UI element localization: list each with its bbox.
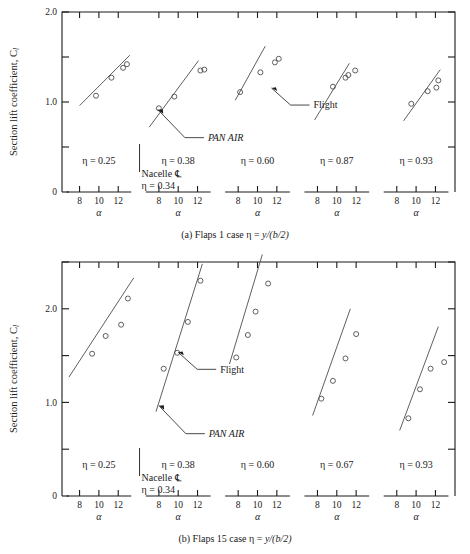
panair-fit-line xyxy=(400,327,439,431)
nacelle-label: Nacelle ℄ xyxy=(142,168,182,179)
x-tick-label: 8 xyxy=(77,500,82,510)
x-tick-label: 12 xyxy=(272,196,282,206)
flight-label: Flight xyxy=(220,364,244,375)
flight-data-point xyxy=(258,70,263,75)
flight-data-point xyxy=(94,93,99,98)
chart-panel-a: 01.02.0Section lift coefficient, Cl81012… xyxy=(0,0,470,250)
chart-panel-b: 01.02.0Section lift coefficient, Cl81012… xyxy=(0,250,470,554)
x-tick-label: 12 xyxy=(431,500,441,510)
panair-fit-line xyxy=(229,255,262,365)
x-tick-label: 8 xyxy=(394,196,399,206)
caption-expression: y/(b/2) xyxy=(261,229,289,241)
x-axis-symbol: α xyxy=(96,207,102,218)
y-tick-label: 2.0 xyxy=(45,7,57,17)
flight-label: Flight xyxy=(314,99,338,110)
y-tick-label: 1.0 xyxy=(45,398,57,408)
panair-fit-line xyxy=(235,46,265,100)
y-axis-title-text: Section lift coefficient, Cl xyxy=(8,48,22,156)
flight-data-point xyxy=(319,396,324,401)
flight-data-point xyxy=(109,75,114,80)
flight-data-point xyxy=(119,322,124,327)
x-tick-label: 10 xyxy=(173,196,183,206)
flight-data-point xyxy=(161,366,166,371)
panair-label: PAN AIR xyxy=(208,428,244,439)
nacelle-marker-a: Nacelle ℄η = 0.34 xyxy=(140,144,182,191)
x-tick-label: 10 xyxy=(332,196,342,206)
eta-label: η = 0.25 xyxy=(82,459,115,470)
figure-root: 01.02.0Section lift coefficient, Cl81012… xyxy=(0,0,470,554)
flight-data-point xyxy=(436,78,441,83)
x-tick-label: 10 xyxy=(253,196,263,206)
eta-label: η = 0.38 xyxy=(162,459,195,470)
x-tick-label: 10 xyxy=(253,500,263,510)
y-axis-title-b: Section lift coefficient, Cl xyxy=(8,325,22,433)
x-axis-symbol: α xyxy=(176,207,182,218)
flight-data-point xyxy=(124,62,129,67)
y-axis-title-subscript: l xyxy=(12,48,21,50)
eta-label: η = 0.60 xyxy=(241,459,274,470)
eta-label: η = 0.87 xyxy=(320,155,353,166)
chart-caption-a: (a) Flaps 1 case η = y/(b/2) xyxy=(181,229,289,241)
x-axis-symbol: α xyxy=(96,511,102,522)
x-tick-label: 10 xyxy=(411,196,421,206)
x-axis-symbol: α xyxy=(255,511,261,522)
nacelle-marker-b: Nacelle ℄η = 0.34 xyxy=(140,448,182,495)
subpanel-a-2: 81012αη = 0.60 xyxy=(225,12,290,218)
flight-data-point xyxy=(245,333,250,338)
flight-data-point xyxy=(343,356,348,361)
flight-data-point xyxy=(434,85,439,90)
flight-data-point xyxy=(266,281,271,286)
flight-data-point xyxy=(172,94,177,99)
y-axis-a: 01.02.0 xyxy=(45,7,455,197)
caption-text: (b) Flaps 15 case η = y/(b/2) xyxy=(178,533,292,545)
x-tick-label: 10 xyxy=(94,500,104,510)
flight-data-point xyxy=(330,378,335,383)
eta-label: η = 0.60 xyxy=(241,155,274,166)
caption-eta: η = xyxy=(249,533,265,544)
panair-arrowhead xyxy=(158,109,163,113)
flight-data-point xyxy=(442,360,447,365)
panair-fit-line xyxy=(313,309,351,416)
x-axis-symbol: α xyxy=(334,207,340,218)
y-axis-title-text: Section lift coefficient, Cl xyxy=(8,325,22,433)
x-tick-label: 8 xyxy=(156,500,161,510)
chart-caption-b: (b) Flaps 15 case η = y/(b/2) xyxy=(178,533,292,545)
panair-leader-line xyxy=(158,110,204,138)
x-tick-label: 8 xyxy=(394,500,399,510)
flight-data-point xyxy=(103,333,108,338)
x-tick-label: 10 xyxy=(332,500,342,510)
flight-data-point xyxy=(125,296,130,301)
x-tick-label: 12 xyxy=(351,196,361,206)
panair-fit-line xyxy=(69,278,134,377)
eta-label: η = 0.93 xyxy=(399,155,432,166)
caption-expression: y/(b/2) xyxy=(264,533,292,545)
chart-svg-b: 01.02.0Section lift coefficient, Cl81012… xyxy=(0,250,470,554)
subpanel-a-4: 81012αη = 0.93 xyxy=(384,12,449,218)
nacelle-label: Nacelle ℄ xyxy=(142,472,182,483)
x-tick-label: 8 xyxy=(315,196,320,206)
panair-fit-line xyxy=(156,264,202,412)
panair-annotation-b: PAN AIR xyxy=(159,405,244,439)
panair-arrowhead xyxy=(159,405,164,409)
x-tick-label: 12 xyxy=(351,500,361,510)
y-axis-title-a: Section lift coefficient, Cl xyxy=(8,48,22,156)
x-tick-label: 12 xyxy=(113,500,123,510)
caption-text: (a) Flaps 1 case η = y/(b/2) xyxy=(181,229,289,241)
x-axis-symbol: α xyxy=(334,511,340,522)
nacelle-eta-label: η = 0.34 xyxy=(142,484,175,495)
flight-data-point xyxy=(354,332,359,337)
x-tick-label: 12 xyxy=(113,196,123,206)
flight-data-point xyxy=(406,416,411,421)
caption-eta: η = xyxy=(246,229,262,240)
x-tick-label: 10 xyxy=(94,196,104,206)
flight-data-point xyxy=(90,351,95,356)
x-tick-label: 8 xyxy=(236,196,241,206)
y-axis-title-subscript: l xyxy=(12,325,21,327)
flight-data-point xyxy=(417,387,422,392)
x-tick-label: 8 xyxy=(315,500,320,510)
eta-label: η = 0.67 xyxy=(320,459,353,470)
subpanel-b-4: 81012αη = 0.93 xyxy=(384,262,449,522)
subpanel-a-3: 81012αη = 0.87 xyxy=(304,12,369,218)
panair-fit-line xyxy=(404,70,441,121)
panair-fit-line xyxy=(315,63,350,120)
